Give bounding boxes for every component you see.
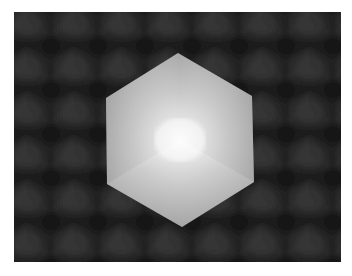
image-canvas: Shaded white hexagonal cube on a dark ti…: [0, 0, 352, 276]
scene: [14, 12, 341, 262]
scene-graphic: [14, 12, 341, 262]
cube-highlight: [154, 118, 206, 162]
